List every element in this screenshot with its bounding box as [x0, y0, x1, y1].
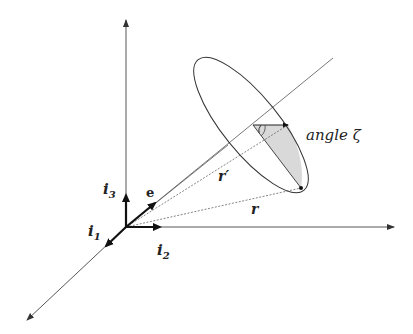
label-angle-zeta: angle ζ — [306, 126, 362, 144]
label-i1: i1 — [88, 222, 101, 242]
label-r: r — [251, 201, 260, 217]
label-r-prime: r′ — [218, 168, 229, 184]
cone-diagram: i3 e i1 i2 r′ r angle ζ — [0, 0, 413, 334]
vector-i1 — [106, 227, 126, 246]
label-i3: i3 — [103, 180, 116, 200]
point-r — [299, 186, 303, 190]
label-i2: i2 — [157, 241, 170, 261]
r-prime-line — [126, 125, 288, 227]
label-e: e — [146, 185, 154, 200]
